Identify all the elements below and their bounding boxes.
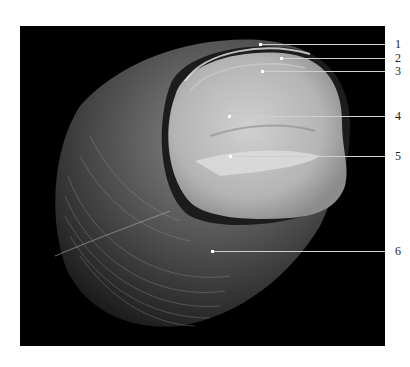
label-6: 6: [395, 245, 401, 257]
label-5: 5: [395, 150, 401, 162]
leader-line-6: [212, 251, 385, 252]
leader-point-5: [229, 155, 232, 158]
hoof-photograph: [20, 26, 385, 346]
leader-line-3: [262, 71, 385, 72]
leader-point-6: [211, 250, 214, 253]
leader-point-4: [228, 115, 231, 118]
leader-line-4: [229, 116, 385, 117]
leader-line-2: [281, 58, 385, 59]
leader-line-1: [260, 44, 385, 45]
label-4: 4: [395, 110, 401, 122]
label-2: 2: [395, 52, 401, 64]
leader-point-2: [280, 57, 283, 60]
label-1: 1: [395, 38, 401, 50]
leader-point-1: [259, 43, 262, 46]
label-3: 3: [395, 65, 401, 77]
leader-point-3: [261, 70, 264, 73]
leader-line-5: [230, 156, 385, 157]
hoof-illustration: [20, 26, 385, 346]
